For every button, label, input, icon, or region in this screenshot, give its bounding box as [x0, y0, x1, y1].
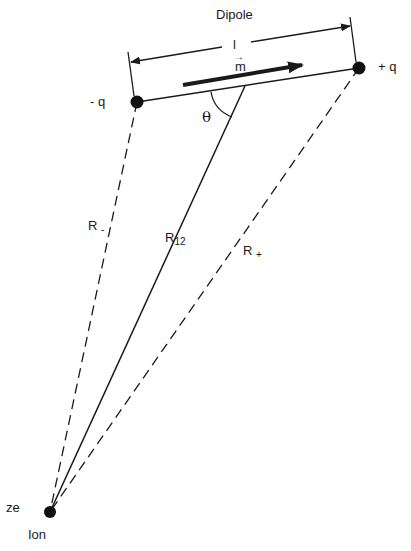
r-minus-sub: - — [101, 224, 104, 235]
r-plus-label: R + — [243, 244, 262, 260]
diagram-canvas — [0, 0, 411, 551]
dipole-moment-label: m — [235, 60, 246, 73]
extension-line-left — [128, 52, 134, 96]
theta-angle-arc — [211, 92, 232, 117]
negative-charge-label: - q — [90, 95, 105, 108]
dimension-line-right — [251, 26, 350, 42]
ion-dot — [44, 506, 56, 518]
dipole-length-label: l — [233, 38, 236, 51]
dimension-line-left — [131, 47, 222, 62]
r-minus-label: R - — [88, 219, 104, 235]
r-plus-line — [50, 68, 359, 512]
r12-label: R12 — [165, 231, 186, 247]
theta-label: θ — [202, 110, 211, 125]
r12-sub: 12 — [174, 236, 185, 247]
diagram-title: Dipole — [216, 8, 253, 21]
negative-charge-dot — [131, 96, 144, 109]
r-minus-base: R — [88, 218, 97, 233]
ion-label: Ion — [28, 528, 46, 541]
r12-base: R — [165, 230, 174, 245]
ion-charge-label: ze — [6, 501, 20, 514]
extension-line-right — [350, 17, 356, 62]
dipole-ion-diagram: Dipole l → m - q + q θ R - R12 R + ze Io… — [0, 0, 411, 551]
r-plus-base: R — [243, 243, 252, 258]
r12-line — [50, 86, 245, 512]
positive-charge-dot — [353, 62, 366, 75]
r-plus-sub: + — [256, 249, 262, 260]
positive-charge-label: + q — [378, 60, 396, 73]
